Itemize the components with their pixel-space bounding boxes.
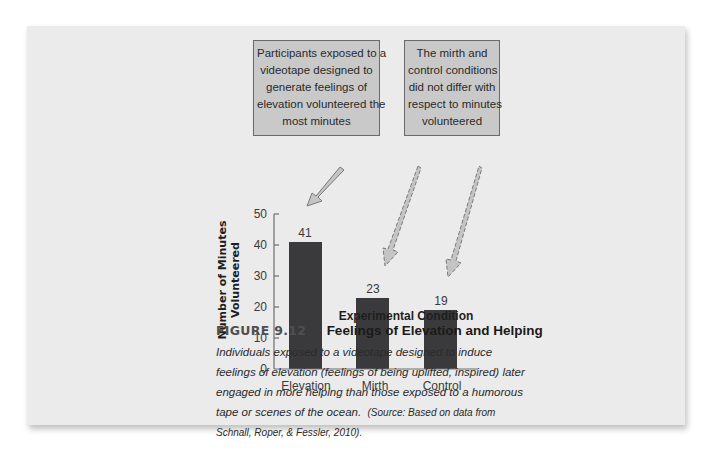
- caption-line: Individuals exposed to a videotape desig…: [216, 342, 516, 362]
- arrow-elevation-icon: [307, 167, 344, 206]
- y-tick-label: 30: [254, 269, 268, 283]
- data-label-mirth: 23: [366, 282, 380, 296]
- arrow-control-dashed-icon: [446, 166, 482, 277]
- source-text: Schnall, Roper, & Fessler, 2010).: [216, 423, 516, 443]
- y-tick-label: 20: [254, 300, 268, 314]
- arrow-mirth-dashed-icon: [383, 166, 421, 266]
- caption-line: engaged in more helping than those expos…: [216, 382, 516, 402]
- caption-line-text: tape or scenes of the ocean.: [216, 406, 361, 418]
- data-label-elevation: 41: [298, 226, 312, 240]
- figure-name: Feelings of Elevation and Helping: [327, 323, 543, 338]
- y-tick-label: 50: [254, 207, 268, 221]
- figure-caption: Individuals exposed to a videotape desig…: [216, 342, 516, 443]
- y-tick-label: 40: [254, 238, 268, 252]
- data-label-control: 19: [434, 294, 448, 308]
- caption-line: feelings of elevation (feelings of being…: [216, 362, 516, 382]
- caption-line: tape or scenes of the ocean. (Source: Ba…: [216, 402, 516, 423]
- figure-number: FIGURE 9.12: [216, 323, 306, 338]
- source-text: (Source: Based on data from: [368, 407, 496, 418]
- x-axis-label: Experimental Condition: [316, 309, 496, 323]
- figure-title: FIGURE 9.12 Feelings of Elevation and He…: [216, 323, 543, 338]
